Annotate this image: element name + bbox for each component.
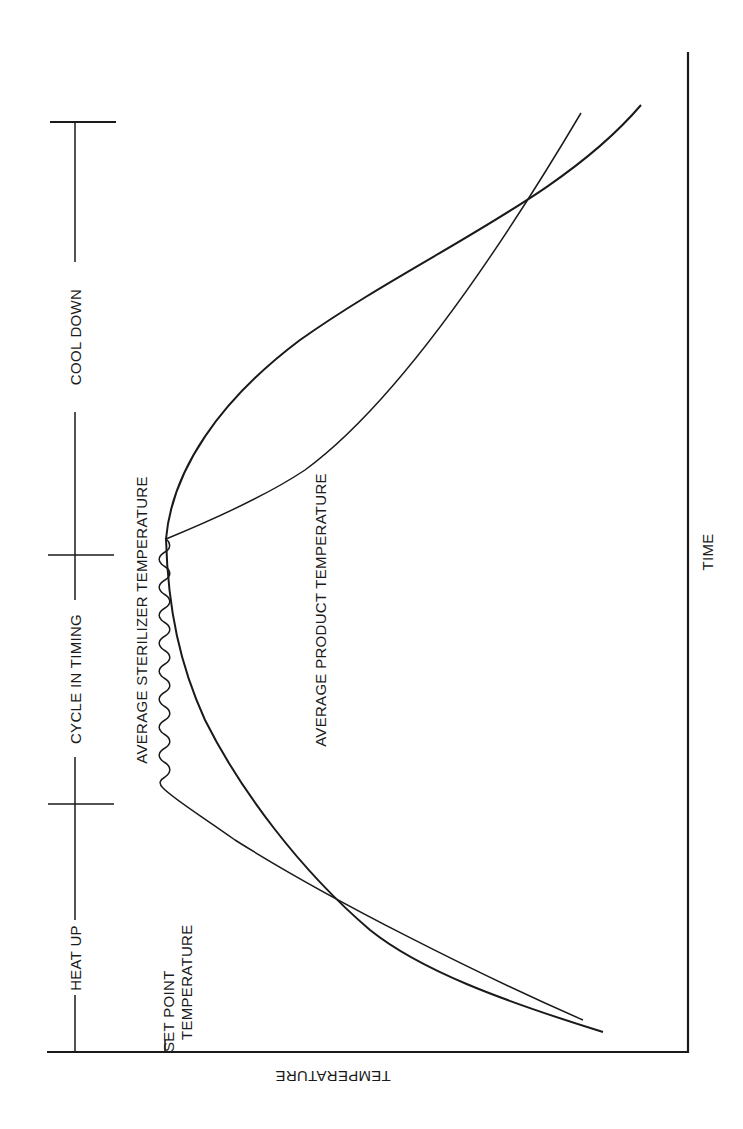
phase-label-cool-down: COOL DOWN <box>67 289 84 385</box>
sterilizer-temperature-curve <box>159 113 583 1020</box>
product-curve-label: AVERAGE PRODUCT TEMPERATURE <box>312 473 329 747</box>
phase-label-cycle-in-timing: CYCLE IN TIMING <box>67 614 84 744</box>
sterilization-cycle-chart: HEAT UP CYCLE IN TIMING COOL DOWN SET PO… <box>0 0 743 1129</box>
set-point-label-line1: SET POINT <box>160 970 177 1052</box>
sterilizer-curve-label: AVERAGE STERILIZER TEMPERATURE <box>133 476 150 763</box>
phase-label-heat-up: HEAT UP <box>67 925 84 991</box>
time-axis-label: TIME <box>699 533 716 570</box>
product-temperature-curve <box>166 105 641 1032</box>
temperature-axis-label: TEMPERATURE <box>275 1068 391 1085</box>
set-point-label-line2: TEMPERATURE <box>178 924 195 1040</box>
